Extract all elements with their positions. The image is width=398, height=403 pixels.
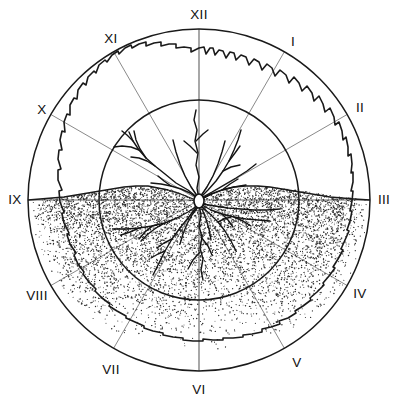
hour-label-VIII: VIII (26, 288, 47, 303)
hour-label-IX: IX (8, 192, 21, 207)
hour-label-X: X (37, 102, 46, 117)
hour-label-IV: IV (353, 286, 366, 301)
hour-label-XII: XII (190, 7, 207, 22)
hour-label-VI: VI (192, 382, 205, 397)
polar-diagram: XII I II III IV V VI VII VIII IX X XI (0, 0, 398, 403)
root-collar-icon (194, 194, 204, 208)
hour-label-I: I (291, 34, 295, 49)
crown-outline (58, 42, 353, 341)
figure-root: XII I II III IV V VI VII VIII IX X XI (0, 0, 398, 403)
hour-label-XI: XI (104, 31, 117, 46)
hour-label-II: II (356, 100, 364, 115)
hour-label-VII: VII (102, 362, 119, 377)
hour-label-III: III (378, 192, 390, 207)
hour-label-V: V (292, 355, 301, 370)
